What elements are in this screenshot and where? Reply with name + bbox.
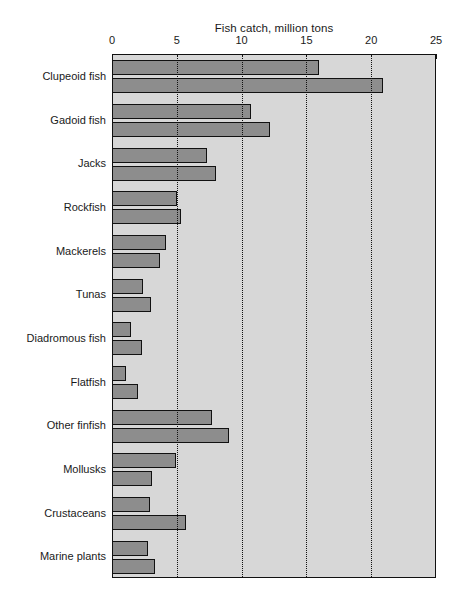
y-axis-category-label: Mackerels (0, 245, 106, 257)
y-axis-category-label: Crustaceans (0, 507, 106, 519)
chart-title: Fish catch, million tons (112, 22, 436, 34)
x-axis-tick-mark (436, 54, 437, 59)
y-axis-category-label: Clupeoid fish (0, 70, 106, 82)
bar (112, 340, 142, 355)
plot-area (112, 54, 436, 578)
bar-group (113, 404, 435, 448)
bar-rows (113, 55, 435, 577)
bar (112, 235, 166, 250)
x-axis-tick-label: 0 (109, 34, 115, 46)
y-axis-category-label: Jacks (0, 157, 106, 169)
bar (112, 322, 131, 337)
y-axis-category-label: Flatfish (0, 376, 106, 388)
bar-group (113, 142, 435, 186)
bar-group (113, 317, 435, 361)
bar (112, 209, 181, 224)
bar (112, 191, 177, 206)
bar (112, 366, 126, 381)
bar-group (113, 535, 435, 579)
bar-group (113, 55, 435, 99)
gridline (177, 55, 178, 577)
x-axis-tick-label: 20 (365, 34, 377, 46)
bar (112, 104, 251, 119)
bar (112, 541, 148, 556)
bar (112, 60, 319, 75)
bar (112, 471, 152, 486)
bar-group (113, 186, 435, 230)
y-axis-category-label: Gadoid fish (0, 114, 106, 126)
bar-group (113, 230, 435, 274)
y-axis-category-label: Other finfish (0, 419, 106, 431)
bar-group (113, 492, 435, 536)
bar (112, 428, 229, 443)
gridline (306, 55, 307, 577)
bar (112, 78, 383, 93)
bar-group (113, 99, 435, 143)
bar (112, 410, 212, 425)
y-axis-category-label: Rockfish (0, 201, 106, 213)
bar-group (113, 273, 435, 317)
bar (112, 166, 216, 181)
y-axis-category-label: Tunas (0, 288, 106, 300)
bar (112, 297, 151, 312)
bar (112, 279, 143, 294)
x-axis-tick-label: 10 (235, 34, 247, 46)
gridline (371, 55, 372, 577)
bar (112, 122, 270, 137)
bar (112, 559, 155, 574)
x-axis-tick-label: 15 (300, 34, 312, 46)
bar-group (113, 361, 435, 405)
bar (112, 253, 160, 268)
y-axis-category-label: Marine plants (0, 550, 106, 562)
bar (112, 453, 176, 468)
x-axis-tick-label: 5 (174, 34, 180, 46)
y-axis-category-label: Diadromous fish (0, 332, 106, 344)
x-axis-tick-label: 25 (430, 34, 442, 46)
bar (112, 497, 150, 512)
bar (112, 148, 207, 163)
bar-group (113, 448, 435, 492)
fish-catch-bar-chart: Fish catch, million tons 0510152025 Clup… (0, 0, 463, 596)
x-axis-tick-mark (112, 54, 113, 59)
bar (112, 515, 186, 530)
x-axis-tick-labels: 0510152025 (0, 34, 463, 50)
y-axis-category-labels: Clupeoid fishGadoid fishJacksRockfishMac… (0, 54, 106, 578)
gridline (242, 55, 243, 577)
bar (112, 384, 138, 399)
y-axis-category-label: Mollusks (0, 463, 106, 475)
